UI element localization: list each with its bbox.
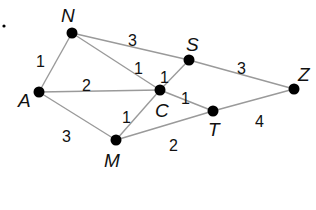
edge-T-Z bbox=[213, 89, 294, 111]
edge-weight-S-C: 1 bbox=[160, 69, 169, 86]
node-M bbox=[111, 135, 122, 146]
edge-weight-M-T: 2 bbox=[169, 137, 178, 154]
edge-weight-C-T: 1 bbox=[181, 90, 190, 107]
edge-A-M bbox=[39, 92, 116, 140]
edge-weight-A-C: 2 bbox=[82, 77, 91, 94]
edge-weight-N-S: 3 bbox=[128, 32, 137, 49]
node-label-S: S bbox=[186, 34, 199, 55]
edge-weight-A-M: 3 bbox=[62, 128, 71, 145]
node-label-M: M bbox=[104, 150, 120, 171]
edge-weight-T-Z: 4 bbox=[255, 113, 264, 130]
node-A bbox=[34, 87, 45, 98]
edge-weight-S-Z: 3 bbox=[237, 60, 246, 77]
edge-weight-N-A: 1 bbox=[36, 53, 45, 70]
node-C bbox=[155, 85, 166, 96]
node-S bbox=[184, 55, 195, 66]
edge-weight-M-C: 1 bbox=[122, 109, 131, 126]
node-label-C: C bbox=[155, 100, 169, 121]
stray-dot bbox=[2, 24, 5, 27]
weighted-graph: 13113231124 NSZACTM bbox=[0, 0, 316, 210]
edge-weight-N-C: 1 bbox=[134, 60, 143, 77]
node-label-Z: Z bbox=[297, 64, 311, 85]
edge-A-C bbox=[39, 90, 160, 92]
node-label-T: T bbox=[208, 119, 221, 140]
node-Z bbox=[289, 84, 300, 95]
node-N bbox=[67, 28, 78, 39]
node-label-A: A bbox=[17, 90, 31, 111]
node-T bbox=[208, 106, 219, 117]
node-label-N: N bbox=[61, 5, 75, 26]
nodes: NSZACTM bbox=[17, 5, 311, 171]
